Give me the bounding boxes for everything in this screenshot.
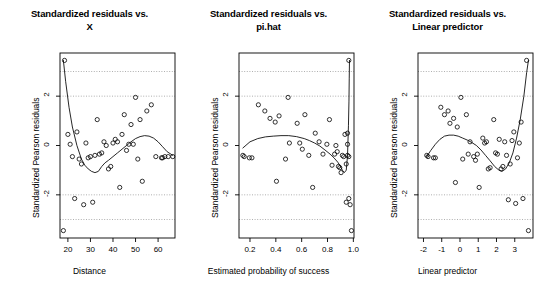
panel-distance: Standardized residuals vs. X Standardize… — [0, 0, 179, 295]
x-tick-label: 0.2 — [236, 245, 264, 254]
y-tick-label: 2 — [221, 87, 230, 103]
y-tick-label: -2 — [221, 185, 230, 201]
x-tick-label: 60 — [144, 245, 172, 254]
figure-canvas: Standardized residuals vs. X Standardize… — [0, 0, 538, 295]
y-tick-label: 2 — [42, 87, 51, 103]
x-tick-label: 0.6 — [288, 245, 316, 254]
panel-pihat: Standardized residuals vs. pi.hat Standa… — [179, 0, 358, 295]
y-tick-label: -2 — [42, 185, 51, 201]
y-tick-label: -2 — [400, 185, 409, 201]
x-tick-label: 0.4 — [262, 245, 290, 254]
y-tick-label: 0 — [42, 136, 51, 152]
y-tick-label: 0 — [221, 136, 230, 152]
x-tick-label: 0.8 — [314, 245, 342, 254]
panel-linear-predictor: Standardized residuals vs. Linear predic… — [358, 0, 537, 295]
y-tick-label: 0 — [400, 136, 409, 152]
x-tick-label: 3 — [501, 245, 529, 254]
y-tick-label: 2 — [400, 87, 409, 103]
